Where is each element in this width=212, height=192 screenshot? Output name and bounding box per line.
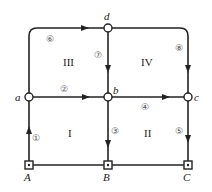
arrow-right-icon — [82, 94, 90, 100]
node-label-C: C — [183, 171, 191, 183]
edge-label-2: ② — [60, 84, 68, 94]
region-label-I: I — [68, 127, 72, 139]
node-a — [25, 93, 33, 101]
edge-label-5: ⑤ — [175, 126, 183, 136]
node-c — [184, 93, 192, 101]
node-B-dot — [107, 164, 109, 166]
node-d — [104, 24, 112, 32]
node-label-b: b — [113, 84, 119, 96]
node-label-B: B — [103, 171, 110, 183]
node-label-A: A — [23, 171, 31, 183]
arrow-down-icon — [105, 65, 111, 73]
edge-label-8: ⑧ — [175, 43, 183, 53]
region-label-IV: IV — [141, 56, 153, 68]
arrow-down-icon — [185, 65, 191, 73]
edge-label-6: ⑥ — [46, 34, 54, 44]
region-label-II: II — [144, 127, 152, 139]
node-b — [104, 93, 112, 101]
edge-label-3: ③ — [111, 126, 119, 136]
node-label-c: c — [194, 91, 199, 103]
arrow-down-icon — [185, 135, 191, 143]
network-diagram: a b c d A B C ① ② ③ ④ ⑤ ⑥ ⑦ ⑧ I II III I… — [0, 0, 212, 192]
edge-label-1: ① — [32, 133, 40, 143]
node-label-d: d — [104, 10, 110, 22]
region-label-III: III — [63, 56, 74, 68]
arrow-right-icon — [81, 25, 89, 31]
arrow-down-icon — [105, 140, 111, 148]
edge-label-4: ④ — [141, 102, 149, 112]
node-A-dot — [28, 164, 30, 166]
node-label-a: a — [15, 91, 21, 103]
edge-label-7: ⑦ — [94, 50, 102, 60]
arrow-right-icon — [162, 94, 170, 100]
node-C-dot — [187, 164, 189, 166]
